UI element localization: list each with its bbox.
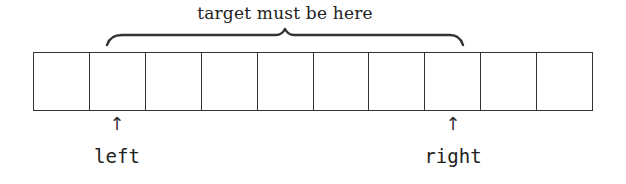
left-pointer-label: left — [87, 145, 147, 167]
array-cell — [481, 53, 537, 110]
right-pointer: ↑ right — [423, 115, 483, 167]
array — [33, 52, 593, 111]
array-cell — [314, 53, 370, 110]
left-pointer: ↑ left — [87, 115, 147, 167]
curly-brace-icon — [0, 0, 626, 60]
up-arrow-icon: ↑ — [423, 115, 483, 135]
right-pointer-label: right — [423, 145, 483, 167]
array-cell — [146, 53, 202, 110]
array-cell — [369, 53, 425, 110]
array-cell — [90, 53, 146, 110]
up-arrow-icon: ↑ — [87, 115, 147, 135]
array-cell — [425, 53, 481, 110]
array-cell — [202, 53, 258, 110]
array-cell — [258, 53, 314, 110]
diagram-canvas: target must be here ↑ left ↑ right — [0, 0, 626, 184]
array-cell — [537, 53, 592, 110]
array-cell — [34, 53, 90, 110]
